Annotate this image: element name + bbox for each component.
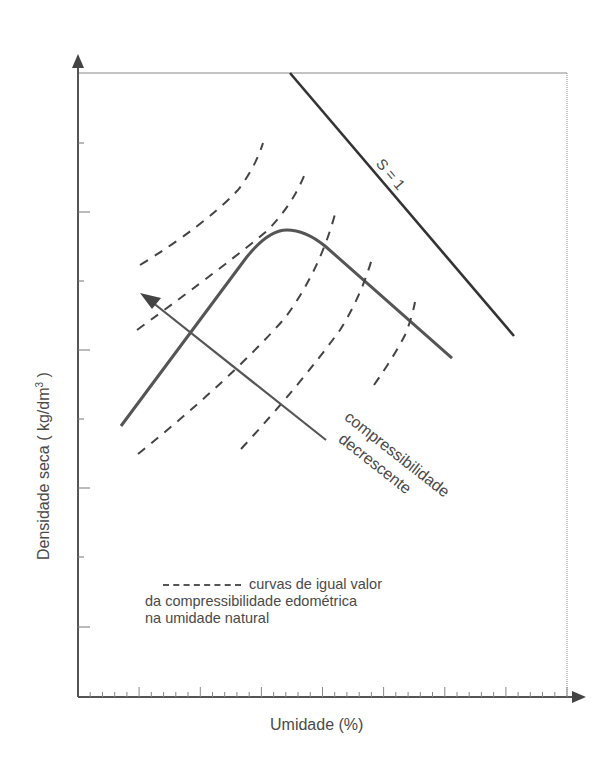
- y-axis: [72, 54, 90, 697]
- x-axis: [78, 687, 586, 703]
- x-axis-label: Umidade (%): [270, 716, 363, 734]
- legend-line1: curvas de igual valor: [249, 576, 382, 593]
- compressibility-arrow: [140, 293, 326, 440]
- legend-row-1: curvas de igual valor: [145, 576, 382, 593]
- saturation-line: [290, 73, 514, 336]
- dashed-curve-5: [374, 302, 415, 385]
- legend-dashed-line-icon: [163, 584, 241, 586]
- y-axis-label-text: Densidade seca ( kg/dm: [35, 387, 52, 560]
- legend: curvas de igual valor da compressibilida…: [145, 576, 382, 627]
- compaction-diagram: [0, 0, 614, 768]
- dashed-curve-1: [140, 143, 263, 265]
- dashed-curve-3: [138, 214, 335, 454]
- y-axis-label-close: ): [35, 372, 52, 382]
- y-axis-arrowhead-icon: [72, 54, 84, 68]
- y-axis-label-superscript: 3: [34, 382, 45, 388]
- dashed-curves: [137, 143, 415, 454]
- x-axis-arrowhead-icon: [572, 691, 586, 703]
- dashed-curve-2: [137, 176, 304, 330]
- legend-line2: da compressibilidade edométrica: [145, 593, 382, 610]
- legend-line3: na umidade natural: [145, 610, 382, 627]
